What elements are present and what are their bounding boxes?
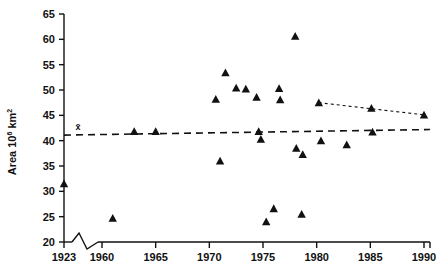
scatter-chart: 19231960196519701975198019851990 2025303… <box>0 0 440 274</box>
x-axis-tick-label: 1923 <box>52 251 76 263</box>
x-axis-tick-label: 1970 <box>197 251 221 263</box>
data-points <box>60 32 428 225</box>
x-axis-tick-label: 1985 <box>358 251 382 263</box>
y-axis-tick-label: 55 <box>43 59 55 71</box>
data-point <box>130 127 138 135</box>
data-point <box>276 95 284 103</box>
y-axis-title: Area 106 km2 <box>6 109 18 176</box>
y-axis-title-unit-exponent: 2 <box>6 109 13 113</box>
data-point <box>315 98 323 106</box>
x-axis-tick-label: 1975 <box>251 251 275 263</box>
data-point <box>297 210 305 218</box>
data-point <box>212 95 220 103</box>
data-point <box>221 69 229 77</box>
data-point <box>232 84 240 92</box>
x-axis-tick-label: 1990 <box>412 251 436 263</box>
data-point <box>368 128 376 136</box>
data-point <box>262 218 270 226</box>
y-axis-tick-label: 50 <box>43 84 55 96</box>
data-point <box>317 136 325 144</box>
x-axis-tick-label: 1960 <box>90 251 114 263</box>
data-point <box>252 93 260 101</box>
data-point <box>257 135 265 143</box>
data-point <box>270 204 278 212</box>
y-axis-tick-label: 65 <box>43 8 55 20</box>
data-point <box>242 85 250 93</box>
y-axis-tick-label: 60 <box>43 33 55 45</box>
x-axis-tick-label: 1965 <box>143 251 167 263</box>
y-axis-title-unit: km <box>6 112 18 131</box>
y-axis-tick-label: 25 <box>43 211 55 223</box>
x-axis-tick-labels: 19231960196519701975198019851990 <box>52 251 436 263</box>
y-axis-title-text: Area 106 km2 <box>6 109 18 176</box>
data-point <box>343 141 351 149</box>
data-point <box>216 157 224 165</box>
y-axis-tick-label: 20 <box>43 236 55 248</box>
data-point <box>292 144 300 152</box>
y-axis-tick-labels: 20253035404550556065 <box>43 8 55 248</box>
chart-canvas: 19231960196519701975198019851990 2025303… <box>0 0 440 274</box>
y-axis-tick-label: 35 <box>43 160 55 172</box>
data-point <box>60 180 68 188</box>
y-axis-title-base: Area 10 <box>6 136 18 176</box>
data-point <box>151 127 159 135</box>
data-point <box>291 32 299 40</box>
data-point <box>275 84 283 92</box>
x-axis-tick-label: 1980 <box>304 251 328 263</box>
y-axis-tick-label: 30 <box>43 185 55 197</box>
x-axis-break-zigzag <box>72 233 98 249</box>
data-point <box>255 127 263 135</box>
mean-line-label: x̄ <box>75 122 80 132</box>
data-point <box>109 214 117 222</box>
y-axis-tick-label: 45 <box>43 109 55 121</box>
y-axis-tick-label: 40 <box>43 135 55 147</box>
